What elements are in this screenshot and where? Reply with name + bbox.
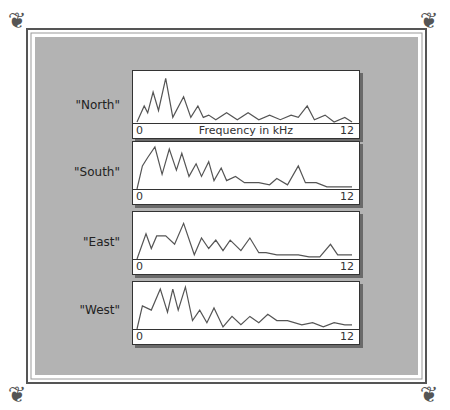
- spectrum-panel-north: 0 Frequency in kHz 12: [132, 70, 360, 139]
- axis-min: 0: [136, 190, 143, 204]
- spectrum-line-west: [133, 282, 358, 330]
- panel-label-north: "North": [30, 98, 120, 112]
- axis-title: Frequency in kHz: [133, 124, 359, 138]
- axis-max: 12: [340, 260, 354, 274]
- svg-text:❦: ❦: [8, 8, 26, 33]
- axis-min: 0: [136, 260, 143, 274]
- axis-min: 0: [136, 330, 143, 344]
- axis-max: 12: [340, 124, 354, 138]
- x-axis-east: 0 12: [133, 259, 359, 274]
- spectrum-line-south: [133, 142, 358, 190]
- spectrum-panel-west: 0 12: [132, 281, 360, 345]
- svg-text:❦: ❦: [8, 382, 26, 407]
- panel-label-west: "West": [30, 303, 120, 317]
- svg-text:❦: ❦: [420, 382, 438, 407]
- x-axis-south: 0 12: [133, 189, 359, 204]
- spectrum-line-north: [133, 71, 358, 123]
- axis-max: 12: [340, 190, 354, 204]
- panel-label-south: "South": [30, 165, 120, 179]
- spectrum-line-east: [133, 212, 358, 260]
- spectrum-panel-south: 0 12: [132, 141, 360, 205]
- spectrum-panel-east: 0 12: [132, 211, 360, 275]
- panel-label-east: "East": [30, 235, 120, 249]
- svg-text:❦: ❦: [420, 8, 438, 33]
- axis-max: 12: [340, 330, 354, 344]
- x-axis-north: 0 Frequency in kHz 12: [133, 123, 359, 138]
- x-axis-west: 0 12: [133, 329, 359, 344]
